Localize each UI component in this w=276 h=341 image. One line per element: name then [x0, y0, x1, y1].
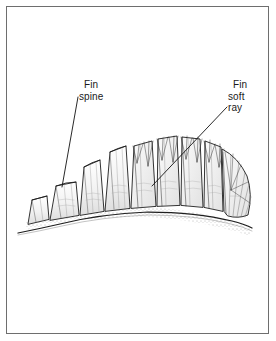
figure-root: Fin spine Fin soft ray: [0, 0, 276, 341]
label-fin-spine: Fin spine: [79, 79, 103, 102]
fin-soft-ray-1: [131, 141, 156, 208]
fin-illustration: [0, 0, 276, 341]
fin-spine-1: [28, 196, 49, 224]
fin-soft-ray-5: [222, 149, 251, 217]
fin-spine-3: [80, 160, 104, 215]
fin-soft-ray-2: [157, 136, 180, 206]
fin-spine-2: [50, 182, 79, 220]
fin-soft-ray-4: [204, 140, 224, 211]
label-fin-soft-ray: Fin soft ray: [228, 79, 247, 114]
fin-soft-ray-group: [131, 136, 251, 217]
label-fin-soft-ray-line-1: Fin: [228, 79, 247, 91]
label-fin-soft-ray-line-2: soft: [228, 91, 247, 103]
drawing-ink: [18, 97, 260, 242]
fin-soft-ray-3: [181, 136, 203, 207]
fin-spine-4: [105, 146, 130, 211]
label-fin-spine-line-2: spine: [79, 91, 103, 103]
label-fin-spine-line-1: Fin: [79, 79, 103, 91]
leader-line-fin-spine: [62, 97, 78, 187]
label-fin-soft-ray-line-3: ray: [228, 102, 247, 114]
